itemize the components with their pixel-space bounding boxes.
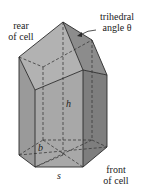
- side-variable-s: s: [57, 170, 61, 181]
- front-label-line2: of cell: [99, 175, 133, 186]
- front-label-line1: front: [99, 164, 133, 175]
- base-variable-b: b: [38, 142, 43, 153]
- height-variable-h: h: [66, 98, 71, 109]
- trihedral-angle-label: trihedral angle θ: [95, 11, 139, 33]
- rear-label-line1: rear: [6, 20, 36, 31]
- right-face: [83, 70, 107, 167]
- front-of-cell-label: front of cell: [99, 164, 133, 186]
- trihedral-label-line2: angle θ: [95, 22, 139, 33]
- rear-label-line2: of cell: [6, 31, 36, 42]
- trihedral-label-line1: trihedral: [95, 11, 139, 22]
- rear-of-cell-label: rear of cell: [6, 20, 36, 42]
